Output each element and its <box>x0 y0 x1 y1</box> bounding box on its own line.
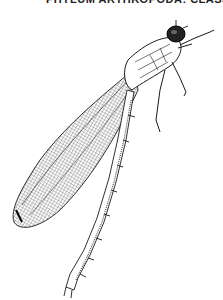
damselfly-illustration <box>0 0 223 300</box>
head <box>167 20 188 42</box>
